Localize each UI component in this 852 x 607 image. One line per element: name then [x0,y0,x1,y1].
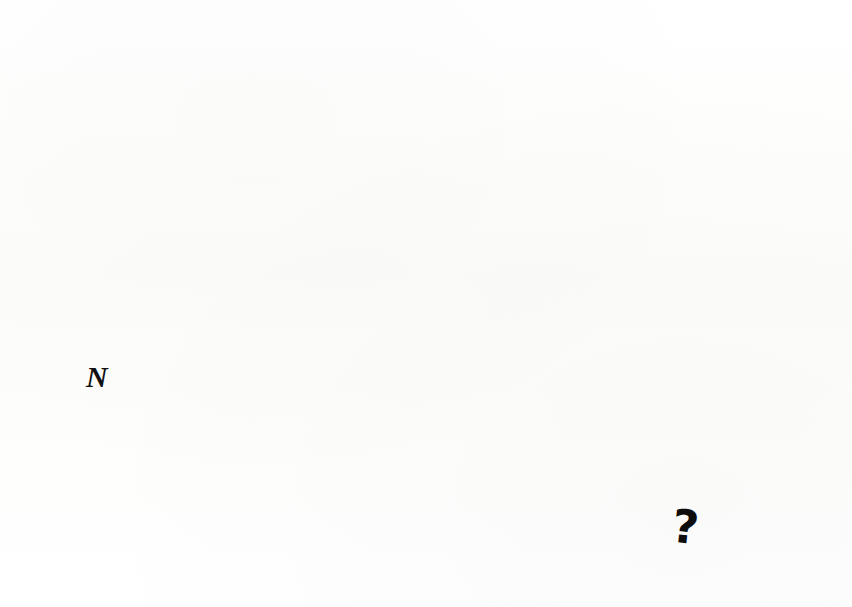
dashed-route-path [213,235,300,268]
stippled-boulder [537,294,575,341]
dashed-route-path [647,490,658,534]
stippled-boulder [394,458,415,483]
dashed-route-path [706,348,752,378]
stippled-boulder [693,418,731,484]
stippled-boulder [123,224,155,293]
stippled-boulder [235,33,274,76]
stippled-boulder [338,492,383,539]
dashed-road-line [34,159,850,173]
stippled-boulder [271,44,308,111]
stippled-boulder [583,61,628,110]
dashed-route-path [654,156,742,160]
stippled-boulder [624,408,666,466]
stippled-boulder [91,45,134,91]
stippled-boulder [80,174,111,208]
dashed-route-path [272,327,309,366]
stippled-boulder [449,55,484,116]
stippled-boulder [152,392,181,450]
dashed-route-path [730,446,770,478]
field-sketch-map: N ? hand-drawn field sketch map [0,0,852,607]
question-mark-annotation: ? [669,499,701,555]
stippled-boulder [151,229,190,274]
dashed-route-path [272,370,420,380]
compass-rose [57,400,137,560]
dashed-route-path [303,236,342,325]
compass-hub [88,493,107,512]
dashed-road-line [34,142,850,155]
stippled-boulder [772,501,813,554]
stippled-boulder [477,386,514,433]
stippled-boulder [555,375,590,422]
stippled-boulder [725,215,764,266]
stippled-boulder [392,310,429,351]
map-canvas [0,0,852,607]
stippled-boulder [615,217,653,263]
stippled-boulder [330,387,375,437]
stippled-boulder [771,40,815,84]
dashed-route-path [122,150,149,183]
dashed-route-path [622,370,666,412]
road-layer [34,142,850,173]
dashed-route-path [756,382,773,442]
stippled-boulder [738,79,765,109]
dashed-route-path [690,166,701,232]
dashed-route-path [447,468,540,518]
stippled-boulder [495,266,530,314]
dashed-route-path [683,236,690,280]
dashed-route-path [380,412,384,478]
north-label: N [86,360,108,394]
stippled-boulder [503,208,539,248]
